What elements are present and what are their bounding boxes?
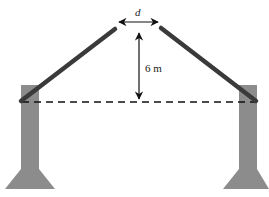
right-pillar — [223, 85, 269, 189]
left-pillar — [5, 85, 55, 189]
left-rod — [21, 29, 115, 101]
right-rod — [161, 28, 256, 101]
height-label: 6 m — [145, 62, 162, 74]
gap-label: d — [135, 6, 141, 18]
roof-diagram: d 6 m — [0, 0, 269, 197]
